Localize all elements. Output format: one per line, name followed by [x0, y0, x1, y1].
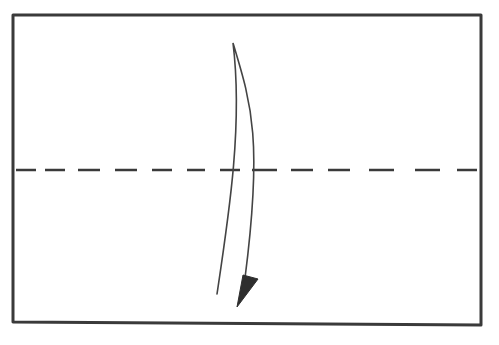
- background: [0, 0, 499, 345]
- origami-diagram: [0, 0, 499, 345]
